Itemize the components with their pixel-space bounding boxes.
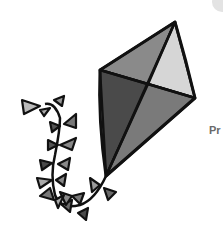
kite-body bbox=[100, 22, 195, 176]
kite-illustration bbox=[0, 0, 223, 243]
partial-label: Pr bbox=[209, 124, 221, 136]
